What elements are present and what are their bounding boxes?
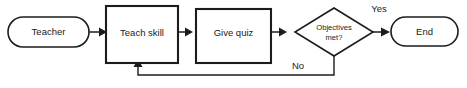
arrowhead-icon (279, 28, 287, 37)
node-give-quiz[interactable]: Give quiz (196, 9, 271, 63)
node-teach-skill[interactable]: Teach skill (106, 6, 178, 63)
flowchart-svg: Yes No Teacher Teach skill Give quiz Obj… (0, 0, 467, 88)
node-label-give-quiz: Give quiz (214, 27, 254, 38)
edge-teach-skill-to-give-quiz (178, 28, 193, 37)
node-label-objectives-line2: met? (326, 33, 343, 42)
node-shape-decision (295, 8, 373, 56)
node-teacher[interactable]: Teacher (8, 17, 89, 47)
flowchart-canvas: Yes No Teacher Teach skill Give quiz Obj… (0, 0, 467, 88)
node-label-end: End (416, 26, 433, 37)
arrowhead-icon (381, 28, 390, 37)
edge-label-no: No (292, 60, 304, 71)
node-end[interactable]: End (391, 17, 458, 46)
arrowhead-icon (185, 28, 193, 37)
edge-label-yes: Yes (371, 3, 387, 14)
node-objectives-met[interactable]: Objectives met? (295, 8, 373, 56)
node-label-teach-skill: Teach skill (120, 27, 164, 38)
node-label-teacher: Teacher (32, 26, 66, 37)
edge-teacher-to-teach-skill (89, 28, 107, 37)
edge-give-quiz-to-objectives (271, 28, 287, 37)
node-label-objectives-line1: Objectives (316, 23, 352, 32)
edge-objectives-to-end-yes: Yes (371, 3, 390, 37)
